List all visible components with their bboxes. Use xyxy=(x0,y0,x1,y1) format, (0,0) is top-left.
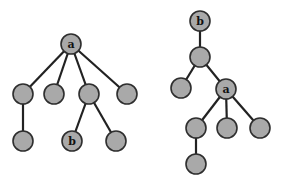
node-label: a xyxy=(222,83,229,96)
tree-node xyxy=(190,47,210,67)
tree-node xyxy=(171,78,191,98)
tree-node xyxy=(186,118,206,138)
tree-node xyxy=(13,84,33,104)
tree-node xyxy=(13,131,33,151)
left-tree: ab xyxy=(13,34,137,151)
node-label: b xyxy=(196,15,204,28)
tree-node xyxy=(79,84,99,104)
right-tree: ba xyxy=(171,11,270,174)
tree-node xyxy=(117,84,137,104)
tree-node xyxy=(250,118,270,138)
tree-node xyxy=(106,131,126,151)
node-label: a xyxy=(67,38,74,51)
tree-node xyxy=(217,118,237,138)
tree-node xyxy=(186,154,206,174)
node-label: b xyxy=(68,135,76,148)
tree-diagram: ab ba xyxy=(0,0,283,185)
tree-node xyxy=(44,84,64,104)
